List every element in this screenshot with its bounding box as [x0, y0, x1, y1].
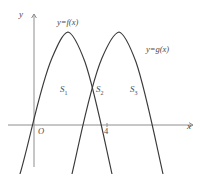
region-label-s1-subscript: 1	[65, 90, 68, 96]
y-axis-label: y	[19, 10, 23, 19]
region-label-s2: S2	[96, 85, 104, 96]
curve-g-label: y=g(x)	[146, 45, 169, 54]
region-label-s1: S1	[60, 85, 68, 96]
region-label-s3-subscript: 3	[135, 90, 138, 96]
curve-f-label: y=f(x)	[57, 18, 78, 27]
region-label-s2-subscript: 2	[101, 90, 104, 96]
math-figure: y x O 4 y=f(x) y=g(x) S1 S2 S3	[0, 0, 199, 174]
origin-label: O	[38, 127, 44, 136]
region-label-s3: S3	[130, 85, 138, 96]
x-tick-label-4: 4	[104, 127, 108, 136]
x-axis-label: x	[187, 122, 191, 131]
